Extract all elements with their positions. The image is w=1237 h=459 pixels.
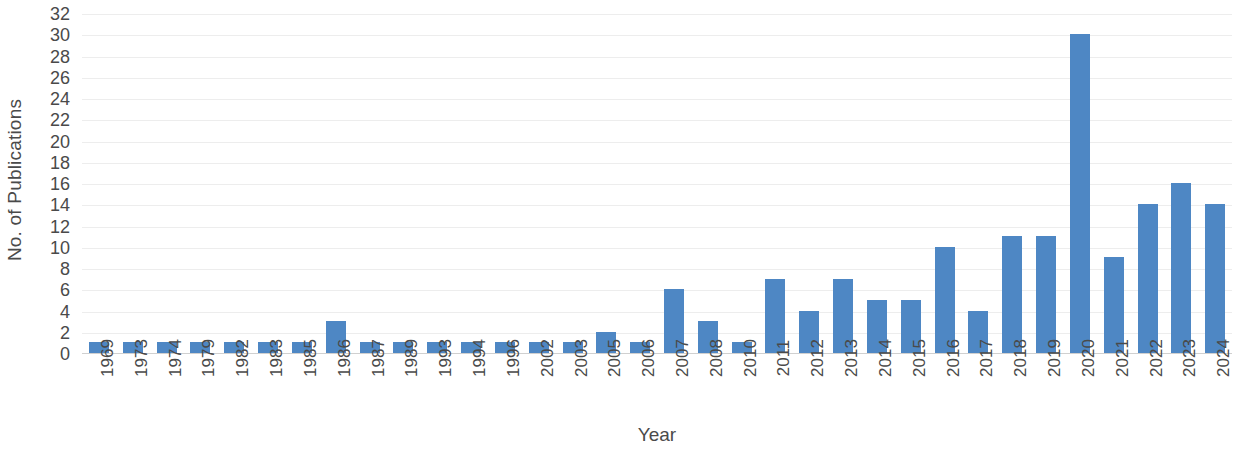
bar-slot (420, 14, 454, 353)
bar-slot (556, 14, 590, 353)
x-axis-tick-1989: 1989 (403, 339, 420, 377)
x-axis-tick-slot: 2006 (623, 356, 657, 418)
x-axis-tick-1994: 1994 (471, 339, 488, 377)
bar-slot (962, 14, 996, 353)
bar-slot (488, 14, 522, 353)
bar-slot (1029, 14, 1063, 353)
bar-2016[interactable] (935, 247, 955, 353)
y-axis-tick-2: 2 (60, 324, 70, 342)
x-axis-tick-2018: 2018 (1012, 339, 1029, 377)
x-axis-tick-slot: 2019 (1029, 356, 1063, 418)
x-axis-tick-slot: 2024 (1198, 356, 1232, 418)
x-axis-tick-2007: 2007 (674, 339, 691, 377)
bar-slot (1131, 14, 1165, 353)
y-axis-tick-32: 32 (50, 5, 70, 23)
publications-by-year-bar-chart: No. of Publications 32302826242220181614… (0, 0, 1237, 459)
x-axis-tick-1993: 1993 (437, 339, 454, 377)
x-axis-tick-slot: 1982 (217, 356, 251, 418)
x-axis-tick-2021: 2021 (1114, 339, 1131, 377)
bar-slot (860, 14, 894, 353)
x-axis-tick-slot: 2016 (928, 356, 962, 418)
bar-slot (623, 14, 657, 353)
bar-slot (522, 14, 556, 353)
y-axis-tick-12: 12 (50, 218, 70, 236)
y-axis-tick-18: 18 (50, 154, 70, 172)
bar-2020[interactable] (1070, 34, 1090, 353)
y-axis-tick-labels: 32302826242220181614121086420 (28, 5, 76, 354)
x-axis-tick-2008: 2008 (708, 339, 725, 377)
bar-slot (826, 14, 860, 353)
bar-2022[interactable] (1138, 204, 1158, 353)
y-axis-tick-20: 20 (50, 133, 70, 151)
x-axis-tick-slot: 2011 (759, 356, 793, 418)
bar-slot (251, 14, 285, 353)
x-axis-tick-slot: 2013 (826, 356, 860, 418)
x-axis-tick-2015: 2015 (911, 339, 928, 377)
bar-series (82, 14, 1232, 353)
y-axis-tick-4: 4 (60, 303, 70, 321)
x-axis-tick-slot: 1989 (386, 356, 420, 418)
bar-slot (995, 14, 1029, 353)
x-axis-tick-slot: 1986 (319, 356, 353, 418)
x-axis-tick-1987: 1987 (370, 339, 387, 377)
x-axis-tick-2012: 2012 (809, 339, 826, 377)
x-axis-tick-1969: 1969 (99, 339, 116, 377)
bar-slot (454, 14, 488, 353)
bar-slot (725, 14, 759, 353)
x-axis-tick-slot: 1996 (488, 356, 522, 418)
y-axis-tick-22: 22 (50, 111, 70, 129)
x-axis-tick-slot: 2010 (725, 356, 759, 418)
x-axis-tick-1982: 1982 (234, 339, 251, 377)
x-axis-tick-2003: 2003 (573, 339, 590, 377)
x-axis-title: Year (82, 424, 1232, 446)
bar-2018[interactable] (1002, 236, 1022, 353)
bar-slot (691, 14, 725, 353)
x-axis-tick-slot: 1987 (353, 356, 387, 418)
bar-slot (1198, 14, 1232, 353)
y-axis-tick-0: 0 (60, 345, 70, 363)
x-axis-tick-1996: 1996 (505, 339, 522, 377)
x-axis-tick-slot: 2023 (1165, 356, 1199, 418)
y-axis-tick-28: 28 (50, 48, 70, 66)
x-axis-tick-labels: 1969197319741979198219831985198619871989… (82, 356, 1232, 418)
bar-slot (759, 14, 793, 353)
x-axis-tick-1973: 1973 (133, 339, 150, 377)
x-axis-tick-slot: 2002 (522, 356, 556, 418)
x-axis-tick-slot: 2014 (860, 356, 894, 418)
bar-slot (894, 14, 928, 353)
x-axis-tick-slot: 1985 (285, 356, 319, 418)
y-axis-title-label: No. of Publications (4, 99, 26, 261)
y-axis-tick-26: 26 (50, 69, 70, 87)
x-axis-tick-2019: 2019 (1046, 339, 1063, 377)
bar-2023[interactable] (1171, 183, 1191, 353)
bar-slot (82, 14, 116, 353)
y-axis-tick-24: 24 (50, 90, 70, 108)
y-axis-tick-30: 30 (50, 26, 70, 44)
x-axis-tick-2024: 2024 (1215, 339, 1232, 377)
bar-slot (1165, 14, 1199, 353)
x-axis-tick-1985: 1985 (302, 339, 319, 377)
x-axis-tick-slot: 2012 (792, 356, 826, 418)
x-axis-tick-slot: 2017 (962, 356, 996, 418)
bar-slot (116, 14, 150, 353)
bar-2019[interactable] (1036, 236, 1056, 353)
y-axis-tick-14: 14 (50, 196, 70, 214)
x-axis-tick-slot: 2020 (1063, 356, 1097, 418)
x-axis-tick-2006: 2006 (640, 339, 657, 377)
x-axis-tick-slot: 2003 (556, 356, 590, 418)
y-axis-title: No. of Publications (0, 0, 30, 360)
bar-slot (589, 14, 623, 353)
bar-slot (183, 14, 217, 353)
bar-2024[interactable] (1205, 204, 1225, 353)
bar-slot (1097, 14, 1131, 353)
x-axis-tick-slot: 2015 (894, 356, 928, 418)
x-axis-tick-1986: 1986 (336, 339, 353, 377)
x-axis-tick-2013: 2013 (843, 339, 860, 377)
y-axis-tick-6: 6 (60, 281, 70, 299)
x-axis-tick-2020: 2020 (1080, 339, 1097, 377)
bar-slot (1063, 14, 1097, 353)
x-axis-tick-1974: 1974 (167, 339, 184, 377)
x-axis-tick-2014: 2014 (877, 339, 894, 377)
x-axis-tick-slot: 2005 (589, 356, 623, 418)
x-axis-tick-slot: 1993 (420, 356, 454, 418)
